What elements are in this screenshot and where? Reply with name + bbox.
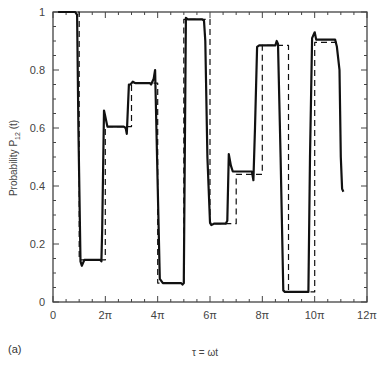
- y-tick-label: 0.2: [30, 238, 45, 250]
- x-tick-label: 6π: [203, 309, 217, 321]
- x-tick-label: 10π: [305, 309, 325, 321]
- y-tick-label: 0.6: [30, 122, 45, 134]
- y-tick-label: 0.4: [30, 180, 45, 192]
- x-axis-title: τ = ωt: [192, 347, 218, 358]
- y-tick-label: 0: [39, 296, 45, 308]
- y-tick-label: 0.8: [30, 64, 45, 76]
- y-axis-title-main: Probability P: [8, 140, 19, 196]
- y-tick-label: 1: [39, 6, 45, 18]
- probability-chart: 02π4π6π8π10π12π00.20.40.60.81 τ = ωt Pro…: [0, 0, 387, 379]
- x-tick-label: 4π: [151, 309, 165, 321]
- panel-label: (a): [8, 343, 21, 355]
- x-tick-label: 12π: [357, 309, 377, 321]
- x-tick-label: 2π: [98, 309, 112, 321]
- y-axis-title-subscript: 12: [14, 132, 21, 140]
- chart-background: [0, 0, 387, 379]
- y-axis-title-suffix: (t): [8, 120, 19, 132]
- x-tick-label: 8π: [255, 309, 269, 321]
- x-tick-label: 0: [50, 309, 56, 321]
